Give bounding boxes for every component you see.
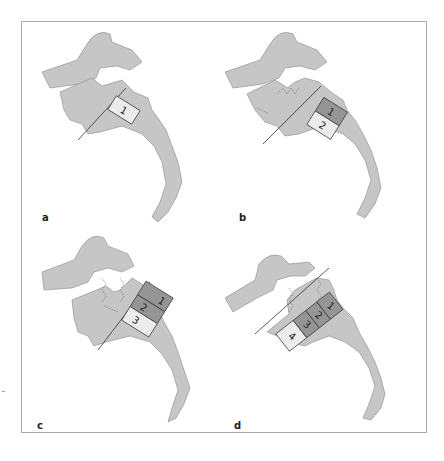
- panel-label-c: c: [37, 420, 43, 431]
- panel-label-a: a: [42, 212, 49, 223]
- figure-frame: 1 a 1 2 b: [21, 21, 427, 433]
- spine-sacrum-illustration-d: 4 3 2 1: [225, 228, 428, 434]
- panel-d: 4 3 2 1 d: [225, 228, 428, 434]
- panel-label-b: b: [239, 212, 246, 223]
- spine-sacrum-illustration-b: 1 2: [225, 22, 428, 228]
- panel-c: 1 2 3 c: [22, 228, 225, 434]
- panel-a: 1 a: [22, 22, 225, 228]
- spine-sacrum-illustration-c: 1 2 3: [22, 228, 225, 434]
- panel-b: 1 2 b: [225, 22, 428, 228]
- spine-sacrum-illustration-a: 1: [22, 22, 225, 228]
- margin-tick-mark: [2, 391, 5, 392]
- panel-label-d: d: [234, 420, 241, 431]
